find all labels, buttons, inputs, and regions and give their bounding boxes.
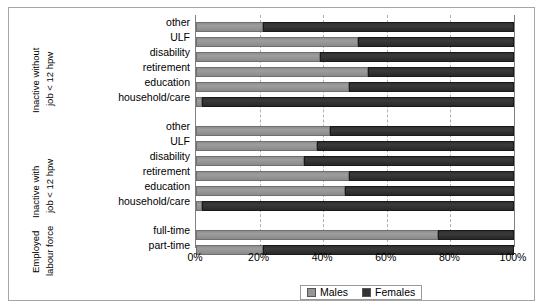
- bar-row-g1-other: [196, 126, 514, 136]
- bar-segment-females: [345, 186, 514, 196]
- bar-row-g0-retirement: [196, 67, 514, 77]
- cat-label-g1-retirement: retirement: [67, 166, 190, 177]
- group-label-employed-line2: labour force: [45, 226, 55, 276]
- bar-segment-females: [317, 141, 514, 151]
- cat-label-g1-ulf: ULF: [67, 136, 190, 147]
- bar-row-g0-education: [196, 82, 514, 92]
- group-label-inactive-with-line2: job < 12 hpw: [45, 159, 55, 213]
- legend-swatch-females-icon: [362, 288, 371, 297]
- bar-row-g0-household-care: [196, 97, 514, 107]
- cat-label-g0-retirement: retirement: [67, 62, 190, 73]
- bar-segment-males: [196, 230, 438, 240]
- bar-row-g1-retirement: [196, 171, 514, 181]
- legend-swatch-males-icon: [307, 288, 316, 297]
- legend-item-males: Males: [307, 287, 348, 298]
- xtick-label-0: 0%: [175, 251, 215, 263]
- bar-segment-females: [202, 97, 514, 107]
- bar-segment-males: [196, 186, 345, 196]
- bar-row-g2-full-time: [196, 230, 514, 240]
- chart-legend: Males Females: [300, 285, 422, 300]
- gridline-100: [514, 15, 515, 247]
- xtick-label-60: 60%: [366, 251, 406, 263]
- cat-label-g1-disability: disability: [67, 151, 190, 162]
- bar-segment-females: [438, 230, 514, 240]
- chart-frame: Inactive without job < 12 hpw Inactive w…: [8, 7, 535, 301]
- bar-segment-females: [202, 201, 514, 211]
- bar-segment-females: [304, 156, 514, 166]
- xtick-label-100: 100%: [493, 251, 533, 263]
- bar-segment-females: [349, 171, 514, 181]
- bar-segment-males: [196, 22, 263, 32]
- cat-label-g0-other: other: [67, 17, 190, 28]
- xtick-label-80: 80%: [429, 251, 469, 263]
- group-label-inactive-without-line2: job < 12 hpw: [45, 52, 55, 106]
- bar-segment-females: [349, 82, 514, 92]
- bar-row-g0-other: [196, 22, 514, 32]
- legend-label-males: Males: [320, 287, 348, 298]
- legend-item-females: Females: [362, 287, 415, 298]
- cat-label-g0-education: education: [67, 77, 190, 88]
- bar-segment-males: [196, 126, 330, 136]
- bar-segment-males: [196, 82, 349, 92]
- bar-row-g1-disability: [196, 156, 514, 166]
- cat-label-g1-other: other: [67, 121, 190, 132]
- bar-row-g0-disability: [196, 52, 514, 62]
- group-label-inactive-without-line1: Inactive without: [31, 48, 41, 113]
- bar-segment-females: [358, 37, 514, 47]
- xtick-label-40: 40%: [302, 251, 342, 263]
- bar-segment-males: [196, 67, 368, 77]
- bar-segment-males: [196, 52, 320, 62]
- group-label-employed-line1: Employed: [31, 231, 41, 273]
- plot-area: [195, 15, 514, 248]
- cat-label-g1-household-care: household/care: [67, 196, 190, 207]
- legend-label-females: Females: [375, 287, 415, 298]
- bar-row-g1-ulf: [196, 141, 514, 151]
- cat-label-g0-disability: disability: [67, 47, 190, 58]
- bar-segment-males: [196, 156, 304, 166]
- bar-row-g1-household-care: [196, 201, 514, 211]
- group-label-inactive-with-line1: Inactive with: [31, 166, 41, 218]
- cat-label-g2-full-time: full-time: [67, 225, 190, 236]
- bar-segment-females: [330, 126, 514, 136]
- bar-segment-females: [263, 22, 514, 32]
- bar-segment-females: [368, 67, 514, 77]
- cat-label-g2-part-time: part-time: [67, 240, 190, 251]
- bar-segment-males: [196, 141, 317, 151]
- cat-label-g1-education: education: [67, 181, 190, 192]
- bar-segment-females: [320, 52, 514, 62]
- bar-segment-males: [196, 171, 349, 181]
- cat-label-g0-ulf: ULF: [67, 32, 190, 43]
- cat-label-g0-household-care: household/care: [67, 92, 190, 103]
- xtick-label-20: 20%: [239, 251, 279, 263]
- bar-row-g1-education: [196, 186, 514, 196]
- bar-segment-males: [196, 37, 358, 47]
- bar-row-g0-ulf: [196, 37, 514, 47]
